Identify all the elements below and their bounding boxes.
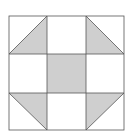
center-square xyxy=(47,54,86,93)
quilt-block-diagram xyxy=(0,0,128,134)
